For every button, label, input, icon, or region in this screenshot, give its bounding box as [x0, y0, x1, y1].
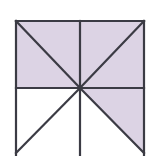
figure-container	[0, 0, 154, 156]
square-fraction-diagram	[0, 0, 154, 156]
